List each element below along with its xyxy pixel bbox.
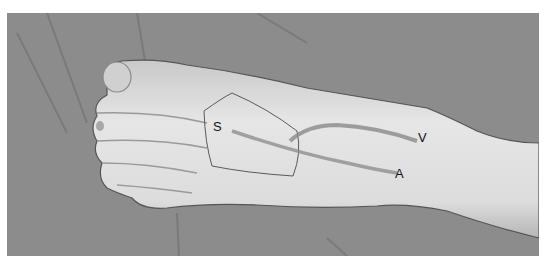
label-a: A (395, 167, 404, 180)
foot-photograph: S V A (7, 13, 539, 256)
label-s: S (213, 120, 222, 133)
foot-illustration (7, 13, 539, 256)
toenail (103, 62, 131, 92)
label-v: V (418, 131, 427, 144)
